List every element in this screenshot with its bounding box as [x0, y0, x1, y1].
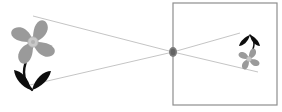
pinhole-dot-core — [171, 49, 176, 55]
object-flower-leaf-left — [14, 70, 31, 90]
object-flower — [9, 18, 57, 90]
camera-back-wall-box — [173, 3, 277, 105]
image-flower-center — [247, 57, 252, 62]
object-flower-center-dot — [31, 40, 35, 44]
pinhole-aperture — [169, 47, 177, 57]
diagram-canvas — [0, 0, 282, 112]
pinhole-camera-diagram — [0, 0, 282, 112]
